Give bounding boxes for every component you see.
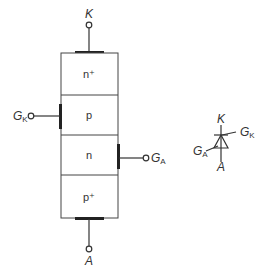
gate-k-terminal-icon <box>28 113 34 119</box>
cathode-label: K <box>85 7 94 21</box>
gate-a-contact <box>117 144 120 169</box>
gate-a-label: GA <box>151 151 166 166</box>
symbol-gate-k-label: GK <box>240 125 255 140</box>
layer-n: n <box>86 149 92 161</box>
thyristor-symbol-icon <box>206 125 236 162</box>
gate-k-label: GK <box>13 109 28 124</box>
layer-p: p <box>86 109 92 121</box>
symbol-gate-a-label: GA <box>193 144 208 159</box>
anode-terminal-icon <box>86 246 92 252</box>
layer-n-plus: n⁺ <box>83 68 95 80</box>
layer-p-plus: p⁺ <box>83 191 95 203</box>
cathode-terminal-icon <box>86 22 92 28</box>
symbol-cathode-label: K <box>217 112 226 126</box>
gate-a-terminal-icon <box>143 155 149 161</box>
thyristor-diagram: K n⁺ p n p⁺ GK GA A K GK GA A <box>0 0 261 268</box>
symbol-anode-label: A <box>216 160 225 174</box>
anode-label: A <box>84 254 93 268</box>
